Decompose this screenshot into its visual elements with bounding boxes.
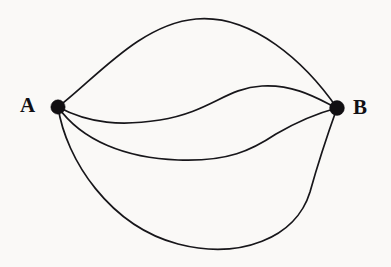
edge-group: [58, 19, 337, 250]
vertex-a-dot[interactable]: [51, 100, 65, 114]
vertex-b-dot[interactable]: [330, 101, 345, 116]
graph-canvas: [0, 0, 391, 267]
edge-a-b-2[interactable]: [58, 86, 337, 123]
edge-a-b-3[interactable]: [58, 107, 337, 160]
edge-a-b-1[interactable]: [58, 19, 337, 108]
vertex-b-label: B: [353, 97, 367, 118]
vertex-group: [51, 100, 345, 116]
graph-figure: A B: [0, 0, 391, 267]
edge-a-b-4[interactable]: [58, 107, 337, 249]
vertex-a-label: A: [20, 95, 35, 116]
